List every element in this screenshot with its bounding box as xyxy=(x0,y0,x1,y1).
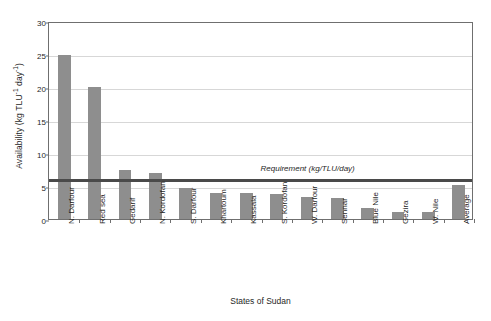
x-axis-category-label-text: Blue Nile xyxy=(371,192,380,224)
x-axis-category-label-text: Red sea xyxy=(98,194,107,224)
x-axis-category-label: Kassala xyxy=(249,196,258,224)
x-axis-tick-mark xyxy=(110,219,111,223)
gridline xyxy=(49,188,472,189)
x-axis-tick-mark xyxy=(474,219,475,223)
y-axis-tick-mark xyxy=(46,89,50,90)
x-axis-category-label-text: N. Darfour xyxy=(67,187,76,224)
y-axis-tick-mark xyxy=(46,56,50,57)
x-axis-category-label: N. Darfour xyxy=(67,187,76,224)
x-axis-category-label-text: Sennar xyxy=(340,198,349,224)
x-axis-category-label: Average xyxy=(462,194,471,224)
x-axis-category-label: S. Kordofan xyxy=(280,182,289,224)
y-axis-title-sup-2: -1 xyxy=(12,66,19,72)
gridline xyxy=(49,122,472,123)
x-axis-category-label-text: W. Darfour xyxy=(310,186,319,224)
x-axis-tick-mark xyxy=(322,219,323,223)
x-axis-tick-mark xyxy=(140,219,141,223)
x-axis-category-label-text: S. Kordofan xyxy=(280,182,289,224)
x-axis-category-label: W. Darfour xyxy=(310,186,319,224)
x-axis-tick-mark xyxy=(170,219,171,223)
gridline xyxy=(49,155,472,156)
x-axis-category-label-text: Kassala xyxy=(249,196,258,224)
chart-figure: Availability (kg TLU-1 day-1) 0510152025… xyxy=(0,0,491,321)
x-axis-title: States of Sudan xyxy=(48,296,473,306)
y-axis-title-sup-1: -1 xyxy=(12,88,19,94)
x-axis-tick-mark xyxy=(353,219,354,223)
x-axis-category-label: Gezira xyxy=(401,200,410,224)
x-axis-category-label-text: Gedarif xyxy=(128,198,137,224)
x-axis-category-label: W. Nile xyxy=(431,199,440,224)
x-axis-category-label-text: W. Nile xyxy=(431,199,440,224)
y-axis-title: Availability (kg TLU-1 day-1) xyxy=(12,11,24,221)
x-axis-category-label: Sennar xyxy=(340,198,349,224)
x-axis-category-label: S. Darfour xyxy=(189,188,198,224)
x-axis-tick-mark xyxy=(79,219,80,223)
x-axis-category-label: Blue Nile xyxy=(371,192,380,224)
x-axis-category-label: Gedarif xyxy=(128,198,137,224)
x-axis-category-label: Khartoum xyxy=(219,189,228,224)
requirement-line-label: Requirement (kg/TLU/day) xyxy=(261,164,355,173)
x-axis-category-label-text: S. Darfour xyxy=(189,188,198,224)
x-axis-tick-mark xyxy=(383,219,384,223)
x-axis-tick-mark xyxy=(292,219,293,223)
x-axis-tick-mark xyxy=(262,219,263,223)
gridline xyxy=(49,56,472,57)
x-axis-category-label-text: N. Kordofan xyxy=(158,181,167,224)
y-axis-tick-mark xyxy=(46,122,50,123)
y-axis-title-prefix: Availability (kg TLU xyxy=(14,94,24,168)
plot-area: 051015202530 xyxy=(48,22,473,220)
x-axis-tick-mark xyxy=(444,219,445,223)
x-axis-category-label: N. Kordofan xyxy=(158,181,167,224)
y-axis-title-middle: day xyxy=(14,72,24,88)
x-axis-category-label-text: Gezira xyxy=(401,200,410,224)
y-axis-tick-mark xyxy=(46,221,50,222)
y-axis-tick-mark xyxy=(46,23,50,24)
requirement-line xyxy=(49,179,472,181)
x-axis-category-label-text: Average xyxy=(462,194,471,224)
y-axis-tick-mark xyxy=(46,155,50,156)
x-axis-tick-mark xyxy=(201,219,202,223)
x-axis-category-label-text: Khartoum xyxy=(219,189,228,224)
x-axis-tick-mark xyxy=(413,219,414,223)
gridline xyxy=(49,89,472,90)
x-axis-tick-mark xyxy=(231,219,232,223)
x-axis-category-label: Red sea xyxy=(98,194,107,224)
y-axis-tick-mark xyxy=(46,188,50,189)
y-axis-title-suffix: ) xyxy=(14,63,24,66)
